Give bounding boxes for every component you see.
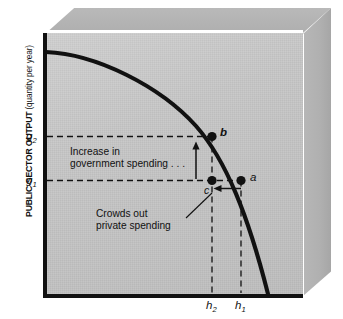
figure-container: PUBLIC-SECTOR OUTPUT (quantity per year)…: [0, 0, 343, 319]
x-tick-label-h1: h1: [235, 299, 246, 314]
x-tick-label-h2: h2: [206, 299, 217, 314]
annotation-increase-spending: Increase in government spending . . .: [70, 146, 185, 171]
y-axis-label-parenthetical: (quantity per year): [24, 45, 34, 109]
point-label-b: b: [220, 126, 227, 138]
y-tick-label-g1: g1: [26, 174, 37, 189]
point-marker-b: [207, 132, 216, 141]
crowds-out-leader-line: [186, 193, 212, 218]
increase-spending-arrow: [192, 142, 199, 180]
point-label-c: c: [204, 184, 209, 196]
y-tick-label-g2: g2: [26, 130, 37, 145]
point-marker-a: [236, 176, 245, 185]
production-possibilities-curve: [46, 52, 268, 294]
point-label-a: a: [250, 171, 256, 183]
y-axis-label-main: PUBLIC-SECTOR OUTPUT: [24, 112, 34, 217]
annotation-crowds-out: Crowds out private spending: [96, 208, 171, 233]
